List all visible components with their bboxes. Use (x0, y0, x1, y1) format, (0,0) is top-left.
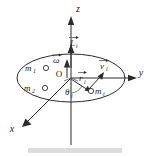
mass-m1-label: m 1 (25, 63, 36, 74)
mass-m2-symbol: m (24, 83, 31, 93)
physics-diagram-figure: z y x O L i ω r i v (0, 0, 149, 156)
mass-mi-label: m i (95, 86, 105, 97)
origin-label: O (56, 69, 63, 79)
angular-momentum-vector-label: L i (69, 36, 79, 49)
z-axis-label: z (75, 3, 80, 14)
mass-m2-label: m 2 (24, 83, 35, 94)
mass-m2-subscript: 2 (32, 88, 35, 94)
theta-angle-arc (71, 86, 82, 93)
velocity-vector-label: v i (99, 59, 109, 72)
position-label-arrow-tip (84, 71, 87, 74)
y-axis-label: y (138, 67, 144, 78)
z-axis-arrowhead (68, 16, 74, 25)
angular-velocity-vector-label: ω (52, 54, 62, 66)
x-axis-arrowhead (22, 119, 32, 128)
angular-momentum-subscript: i (76, 43, 78, 49)
velocity-symbol: v (100, 61, 104, 71)
velocity-label-arrow-tip (106, 59, 109, 62)
y-axis-arrowhead (128, 75, 137, 81)
theta-angle-label: θ i (65, 87, 73, 99)
mass-mi-marker (88, 88, 93, 93)
position-symbol: r (79, 73, 83, 83)
mass-m1-symbol: m (25, 63, 32, 73)
position-subscript: i (84, 79, 86, 85)
mass-mi-subscript: i (103, 91, 105, 97)
x-axis-line (27, 78, 71, 122)
theta-symbol: θ (65, 87, 70, 97)
mass-mi-symbol: m (95, 86, 102, 96)
angular-momentum-label-arrow-tip (76, 36, 79, 39)
mass-m2-marker (42, 85, 47, 90)
angular-momentum-symbol: L (69, 38, 75, 48)
theta-subscript: i (71, 93, 73, 99)
mass-m1-subscript: 1 (33, 68, 36, 74)
diagram-canvas: z y x O L i ω r i v (0, 0, 149, 156)
velocity-subscript: i (106, 66, 108, 72)
caption-placeholder-bar (28, 148, 122, 153)
angular-velocity-vector-arrowhead (64, 59, 70, 68)
angular-velocity-symbol: ω (53, 55, 59, 65)
mass-m1-marker (43, 65, 48, 70)
x-axis-label: x (9, 123, 15, 134)
